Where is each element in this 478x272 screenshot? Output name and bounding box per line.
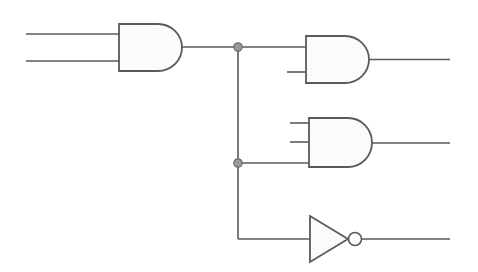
junction-dot-1 (234, 43, 242, 51)
and-gate-3 (309, 118, 372, 167)
not-gate-inversion-bubble (349, 233, 362, 246)
not-gate (310, 216, 348, 262)
logic-circuit-diagram (0, 0, 478, 272)
and-gate-2 (306, 36, 369, 83)
and-gate-1 (119, 24, 182, 71)
junction-dot-2 (234, 159, 242, 167)
